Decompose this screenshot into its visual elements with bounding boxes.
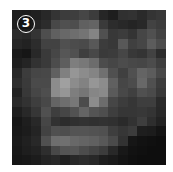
pixel-cell (60, 39, 70, 49)
pixel-cell (41, 126, 51, 136)
pixel-cell (79, 155, 89, 165)
pixel-cell (156, 49, 166, 59)
pixel-cell (99, 20, 109, 30)
pixel-cell (31, 39, 41, 49)
pixel-cell (22, 155, 32, 165)
pixel-cell (99, 68, 109, 78)
pixel-cell (128, 58, 138, 68)
pixel-cell (51, 97, 61, 107)
pixel-cell (108, 78, 118, 88)
pixel-cell (60, 10, 70, 20)
pixel-cell (79, 20, 89, 30)
pixel-cell (89, 126, 99, 136)
pixel-cell (60, 49, 70, 59)
pixel-cell (70, 49, 80, 59)
pixel-cell (51, 126, 61, 136)
pixel-cell (41, 29, 51, 39)
pixel-cell (41, 68, 51, 78)
pixel-cell (41, 155, 51, 165)
pixel-cell (70, 29, 80, 39)
pixel-cell (108, 29, 118, 39)
pixel-cell (60, 97, 70, 107)
pixel-cell (51, 136, 61, 146)
pixel-cell (70, 97, 80, 107)
pixel-cell (31, 88, 41, 98)
pixel-cell (79, 136, 89, 146)
pixel-cell (70, 155, 80, 165)
pixel-cell (118, 97, 128, 107)
pixel-cell (60, 117, 70, 127)
pixel-cell (41, 146, 51, 156)
pixel-cell (51, 29, 61, 39)
pixel-cell (22, 126, 32, 136)
pixel-cell (128, 107, 138, 117)
pixel-cell (128, 126, 138, 136)
pixel-cell (156, 155, 166, 165)
pixel-cell (99, 29, 109, 39)
pixel-cell (60, 29, 70, 39)
pixel-cell (108, 68, 118, 78)
pixel-cell (89, 68, 99, 78)
pixel-cell (147, 39, 157, 49)
pixel-cell (99, 97, 109, 107)
pixel-cell (128, 10, 138, 20)
pixel-cell (70, 107, 80, 117)
pixel-cell (89, 88, 99, 98)
pixel-cell (156, 68, 166, 78)
pixel-cell (89, 97, 99, 107)
pixel-cell (12, 88, 22, 98)
pixel-cell (128, 117, 138, 127)
pixel-cell (137, 10, 147, 20)
pixel-cell (89, 29, 99, 39)
pixel-cell (118, 117, 128, 127)
pixel-cell (31, 58, 41, 68)
pixel-cell (118, 88, 128, 98)
pixel-cell (51, 49, 61, 59)
pixel-cell (99, 88, 109, 98)
pixel-cell (79, 29, 89, 39)
pixel-cell (147, 49, 157, 59)
pixel-cell (31, 107, 41, 117)
pixel-cell (89, 58, 99, 68)
pixel-cell (137, 88, 147, 98)
pixel-cell (41, 10, 51, 20)
pixel-cell (22, 97, 32, 107)
pixel-cell (99, 117, 109, 127)
pixel-cell (147, 58, 157, 68)
pixel-cell (89, 146, 99, 156)
pixel-cell (22, 136, 32, 146)
pixel-cell (70, 126, 80, 136)
pixel-cell (156, 97, 166, 107)
pixel-cell (99, 146, 109, 156)
pixel-cell (156, 29, 166, 39)
pixel-cell (137, 136, 147, 146)
pixel-cell (99, 126, 109, 136)
pixel-cell (108, 88, 118, 98)
pixel-cell (22, 39, 32, 49)
pixel-cell (79, 49, 89, 59)
pixel-cell (108, 49, 118, 59)
pixel-cell (137, 20, 147, 30)
pixel-cell (89, 49, 99, 59)
pixel-cell (108, 39, 118, 49)
pixel-cell (147, 117, 157, 127)
pixel-cell (89, 136, 99, 146)
pixel-cell (22, 88, 32, 98)
pixel-cell (137, 155, 147, 165)
pixel-cell (118, 126, 128, 136)
pixel-cell (70, 117, 80, 127)
pixel-cell (147, 146, 157, 156)
pixel-cell (70, 146, 80, 156)
pixel-cell (31, 29, 41, 39)
pixel-cell (79, 88, 89, 98)
pixel-cell (147, 68, 157, 78)
pixel-cell (147, 29, 157, 39)
pixel-cell (41, 136, 51, 146)
pixel-cell (12, 117, 22, 127)
pixel-cell (147, 107, 157, 117)
pixel-cell (51, 155, 61, 165)
pixel-cell (12, 107, 22, 117)
pixel-cell (156, 88, 166, 98)
pixel-cell (70, 20, 80, 30)
pixel-cell (60, 126, 70, 136)
